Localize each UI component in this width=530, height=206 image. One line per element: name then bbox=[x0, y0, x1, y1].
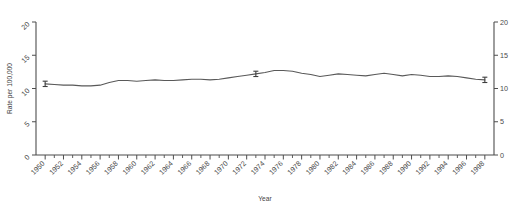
x-axis-tick-label: 1980 bbox=[304, 159, 322, 177]
y-axis-left-tick-label: 20 bbox=[19, 20, 31, 32]
y-axis-left-tick-label: 10 bbox=[19, 86, 31, 98]
y-axis-label: Rate per 100,000 bbox=[6, 63, 14, 114]
y-axis-left-tick-label: 0 bbox=[22, 153, 31, 162]
x-axis-tick-label: 1964 bbox=[157, 159, 175, 177]
chart-container: 05101520 05101520 1950195219541956195819… bbox=[0, 0, 530, 206]
x-axis-tick-label: 1988 bbox=[377, 159, 395, 177]
y-axis-right-tick-label: 20 bbox=[500, 18, 508, 27]
x-axis-tick-label: 1978 bbox=[285, 159, 303, 177]
y-axis-left-tick-label: 5 bbox=[22, 119, 31, 128]
x-axis-tick-label: 1990 bbox=[395, 159, 413, 177]
x-axis-tick-label: 1962 bbox=[139, 159, 157, 177]
x-axis-tick-label: 1994 bbox=[432, 159, 450, 177]
x-axis-tick-label: 1992 bbox=[414, 159, 432, 177]
x-axis-tick-label: 1960 bbox=[120, 159, 138, 177]
x-axis-tick-label: 1956 bbox=[84, 159, 102, 177]
x-axis-tick-label: 1954 bbox=[66, 159, 84, 177]
x-axis-tick-label: 1966 bbox=[175, 159, 193, 177]
series-line bbox=[45, 71, 485, 86]
x-axis-tick-label: 1976 bbox=[267, 159, 285, 177]
x-axis-label: Year bbox=[258, 195, 272, 202]
x-axis-tick-label: 1970 bbox=[212, 159, 230, 177]
x-axis-tick-label: 1968 bbox=[194, 159, 212, 177]
x-axis-tick-label: 1950 bbox=[29, 159, 47, 177]
y-axis-right: 05101520 bbox=[494, 18, 508, 160]
x-axis-tick-label: 1974 bbox=[249, 159, 267, 177]
y-axis-left: 05101520 bbox=[19, 20, 36, 162]
data-series-rate bbox=[45, 71, 485, 86]
x-axis-tick-label: 1996 bbox=[450, 159, 468, 177]
y-axis-left-tick-label: 15 bbox=[19, 53, 31, 65]
error-bars bbox=[43, 71, 488, 86]
x-axis-tick-label: 1998 bbox=[469, 159, 487, 177]
x-axis-tick-label: 1952 bbox=[47, 159, 65, 177]
y-axis-right-tick-label: 10 bbox=[500, 84, 508, 93]
y-axis-right-tick-label: 5 bbox=[500, 117, 504, 126]
x-axis-tick-label: 1986 bbox=[359, 159, 377, 177]
x-axis: 1950195219541956195819601962196419661968… bbox=[29, 155, 494, 177]
x-axis-tick-label: 1984 bbox=[340, 159, 358, 177]
y-axis-right-tick-label: 0 bbox=[500, 151, 504, 160]
x-axis-tick-label: 1972 bbox=[230, 159, 248, 177]
line-chart: 05101520 05101520 1950195219541956195819… bbox=[0, 0, 530, 206]
x-axis-tick-label: 1982 bbox=[322, 159, 340, 177]
y-axis-right-tick-label: 15 bbox=[500, 51, 508, 60]
x-axis-tick-label: 1958 bbox=[102, 159, 120, 177]
